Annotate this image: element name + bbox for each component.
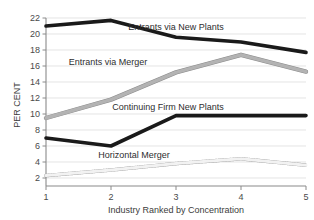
y-tick-label: 20 bbox=[30, 29, 40, 39]
x-axis-title: Industry Ranked by Concentration bbox=[108, 205, 244, 215]
x-tick-label: 5 bbox=[303, 192, 308, 202]
x-tick-label: 4 bbox=[238, 192, 243, 202]
series-inline-label: Entrants via New Plants bbox=[128, 22, 224, 32]
y-tick-label: 14 bbox=[30, 77, 40, 87]
x-tick-label: 3 bbox=[173, 192, 178, 202]
x-tick-label: 1 bbox=[43, 192, 48, 202]
y-tick-label: 22 bbox=[30, 13, 40, 23]
y-tick-label: 6 bbox=[35, 141, 40, 151]
y-tick-label: 16 bbox=[30, 61, 40, 71]
x-tick-label: 2 bbox=[108, 192, 113, 202]
y-tick-label: 8 bbox=[35, 125, 40, 135]
y-tick-label: 12 bbox=[30, 93, 40, 103]
y-tick-label: 2 bbox=[35, 173, 40, 183]
series-inline-label: Entrants via Merger bbox=[69, 57, 148, 67]
y-tick-label: 4 bbox=[35, 157, 40, 167]
series-inline-label: Continuing Firm New Plants bbox=[112, 102, 224, 112]
line-chart: 246810121416182022 12345 Entrants via Ne… bbox=[0, 0, 314, 220]
y-tick-label: 10 bbox=[30, 109, 40, 119]
series-inline-label: Horizontal Merger bbox=[98, 150, 170, 160]
y-axis-title: PER CENT bbox=[12, 82, 22, 128]
y-tick-label: 18 bbox=[30, 45, 40, 55]
chart-container: 246810121416182022 12345 Entrants via Ne… bbox=[0, 0, 314, 220]
